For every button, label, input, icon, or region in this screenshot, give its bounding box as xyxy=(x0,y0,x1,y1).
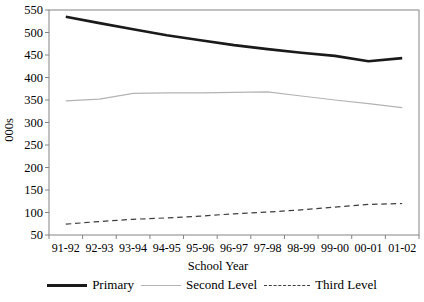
legend-label-primary: Primary xyxy=(92,277,134,293)
legend-label-third-level: Third Level xyxy=(315,277,377,293)
second-level-line-swatch xyxy=(141,285,181,286)
x-tick-label: 94-95 xyxy=(153,241,181,255)
plot-border xyxy=(49,10,419,235)
x-tick-label: 93-94 xyxy=(119,241,147,255)
x-tick-label: 91-92 xyxy=(52,241,80,255)
third-level-line-swatch xyxy=(264,285,310,286)
y-tick-label: 450 xyxy=(24,48,43,62)
primary-line-swatch xyxy=(47,284,87,287)
y-tick-label: 100 xyxy=(24,206,43,220)
x-tick-label: 92-93 xyxy=(85,241,113,255)
y-tick-label: 400 xyxy=(24,71,43,85)
series-line-third-level xyxy=(66,204,402,225)
x-tick-label: 95-96 xyxy=(186,241,214,255)
legend-item-third-level: Third Level xyxy=(264,277,377,293)
y-axis-title: 000s xyxy=(2,118,16,142)
x-tick-label: 96-97 xyxy=(220,241,248,255)
y-tick-label: 250 xyxy=(24,138,43,152)
series-line-primary xyxy=(66,17,402,62)
y-tick-label: 350 xyxy=(24,93,43,107)
line-chart: 5010015020025030035040045050055091-9292-… xyxy=(0,0,424,302)
x-tick-label: 99-00 xyxy=(321,241,349,255)
x-axis-title: School Year xyxy=(188,259,249,273)
legend-item-second-level: Second Level xyxy=(141,277,257,293)
y-tick-label: 200 xyxy=(24,161,43,175)
y-tick-label: 150 xyxy=(24,183,43,197)
chart-figure: 5010015020025030035040045050055091-9292-… xyxy=(0,0,424,302)
y-tick-label: 50 xyxy=(31,228,44,242)
x-tick-label: 98-99 xyxy=(287,241,315,255)
legend: Primary Second Level Third Level xyxy=(0,276,424,294)
legend-item-primary: Primary xyxy=(47,277,134,293)
y-tick-label: 500 xyxy=(24,26,43,40)
legend-label-second-level: Second Level xyxy=(186,277,257,293)
y-tick-label: 550 xyxy=(24,3,43,17)
x-tick-label: 97-98 xyxy=(254,241,282,255)
y-tick-label: 300 xyxy=(24,116,43,130)
series-line-second-level xyxy=(66,92,402,108)
x-tick-label: 01-02 xyxy=(388,241,416,255)
x-tick-label: 00-01 xyxy=(355,241,383,255)
